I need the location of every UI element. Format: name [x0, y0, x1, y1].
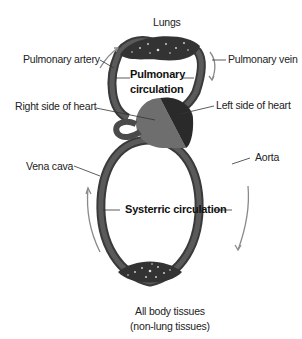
pulmonary-circulation-line1: Pulmonary — [130, 67, 182, 82]
body-tissues-line2: (non-lung tissues) — [120, 319, 220, 334]
label-aorta: Aorta — [255, 151, 279, 163]
label-vena-cava: Vena cava — [26, 160, 73, 172]
pulmonary-circulation-line2: circulation — [130, 82, 182, 97]
label-pulmonary-vein: Pulmonary vein — [228, 53, 298, 65]
label-systemic-circulation: Systerric circulation — [125, 203, 227, 215]
label-body-tissues: All body tissues (non-lung tissues) — [120, 304, 220, 334]
heart — [116, 97, 193, 148]
label-pulmonary-artery: Pulmonary artery — [23, 53, 100, 65]
label-pulmonary-circulation: Pulmonary circulation — [130, 67, 182, 97]
body-tissues-capillary-bed — [118, 262, 182, 283]
label-right-heart: Right side of heart — [15, 100, 96, 112]
body-tissues-line1: All body tissues — [120, 304, 220, 319]
label-lungs: Lungs — [153, 16, 181, 28]
label-left-heart: Left side of heart — [216, 99, 291, 111]
